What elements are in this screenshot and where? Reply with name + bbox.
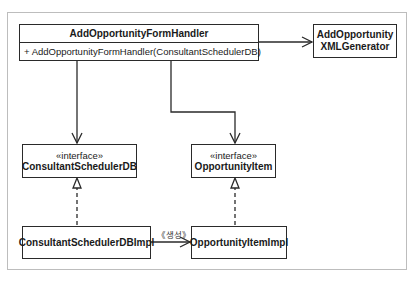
class-opportunity-item-impl[interactable]: OpportunityItemImpl [191, 226, 287, 259]
hollow-triangle-icon [231, 178, 239, 188]
class-add-opportunity-xml-generator[interactable]: AddOpportunity XMLGenerator [313, 24, 397, 58]
hollow-triangle-icon [73, 178, 81, 188]
stereotype-label: «interface» [56, 150, 103, 161]
uml-diagram-canvas: AddOpportunityFormHandler + AddOpportuni… [0, 0, 417, 282]
interface-name: OpportunityItem [195, 161, 273, 173]
class-name: OpportunityItemImpl [190, 237, 288, 249]
stereotype-label: «interface» [210, 150, 257, 161]
class-name-compartment: AddOpportunityFormHandler [20, 25, 258, 43]
class-consultant-scheduler-db-impl[interactable]: ConsultantSchedulerDBImpl [22, 226, 151, 259]
operations-compartment: + AddOpportunityFormHandler(ConsultantSc… [20, 43, 258, 60]
create-stereotype-label: 《생성》 [157, 228, 191, 240]
class-name-line2: XMLGenerator [321, 41, 390, 53]
interface-opportunity-item[interactable]: «interface» OpportunityItem [191, 144, 276, 178]
interface-name: ConsultantSchedulerDB [22, 161, 137, 173]
interface-consultant-scheduler-db[interactable]: «interface» ConsultantSchedulerDB [22, 144, 137, 178]
association-handler-oitem [171, 61, 235, 143]
class-name: AddOpportunityFormHandler [70, 28, 209, 40]
class-name-line1: AddOpportunity [317, 29, 394, 41]
class-name: ConsultantSchedulerDBImpl [19, 237, 155, 249]
class-add-opportunity-form-handler[interactable]: AddOpportunityFormHandler + AddOpportuni… [19, 24, 259, 61]
operation-constructor: + AddOpportunityFormHandler(ConsultantSc… [24, 46, 261, 57]
